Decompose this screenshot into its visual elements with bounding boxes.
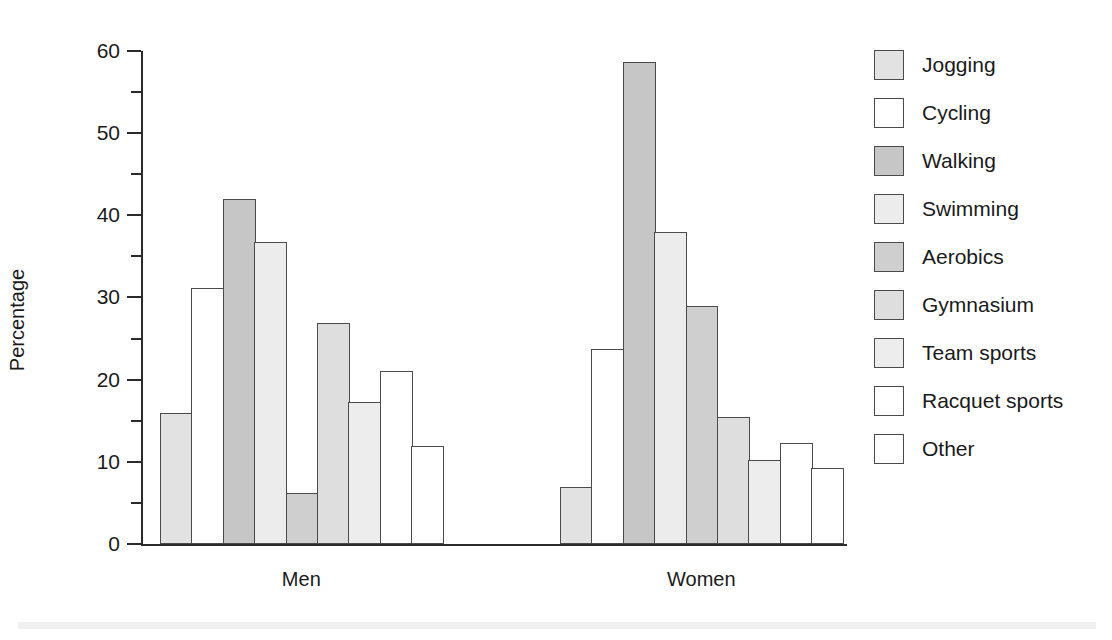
bar [223,199,256,544]
bar [591,349,624,544]
legend-item[interactable]: Cycling [874,89,1106,137]
y-tick-label: 20 [60,369,120,390]
y-tick-minor [131,255,141,257]
y-tick-label-wrap: 60 [50,40,120,61]
page-scan-band [18,622,1096,629]
y-tick-label-wrap: 10 [50,451,120,472]
y-tick-major [127,379,141,381]
y-tick-major [127,543,141,545]
bar [286,493,319,544]
y-tick-label: 40 [60,204,120,225]
legend-swatch-icon [874,146,904,176]
legend-label: Other [922,437,975,461]
bar [654,232,687,544]
legend-label: Racquet sports [922,389,1063,413]
legend-label: Jogging [922,53,996,77]
bar [191,288,224,544]
legend-label: Gymnasium [922,293,1034,317]
legend-item[interactable]: Swimming [874,185,1106,233]
legend-label: Team sports [922,341,1036,365]
bar [160,413,193,544]
bar [380,371,413,544]
y-tick-minor [131,173,141,175]
bar [748,460,781,544]
y-axis-line [141,51,143,546]
y-tick-major [127,214,141,216]
y-axis-title: Percentage [7,240,27,400]
bar [623,62,656,544]
y-tick-label-wrap: 50 [50,122,120,143]
y-tick-label: 10 [60,451,120,472]
y-tick-minor [131,502,141,504]
y-tick-label: 30 [60,286,120,307]
chart-figure: 0102030405060 Percentage MenWomen Joggin… [0,0,1112,640]
bar [254,242,287,544]
bar [717,417,750,544]
y-tick-label-wrap: 40 [50,204,120,225]
legend-swatch-icon [874,242,904,272]
legend-item[interactable]: Walking [874,137,1106,185]
bar [560,487,593,544]
legend-label: Cycling [922,101,991,125]
bar [348,402,381,544]
y-tick-minor [131,338,141,340]
legend-swatch-icon [874,194,904,224]
legend-swatch-icon [874,50,904,80]
y-tick-major [127,132,141,134]
legend-label: Aerobics [922,245,1004,269]
x-axis-line [141,544,847,546]
y-tick-label-wrap: 30 [50,286,120,307]
y-tick-label: 50 [60,122,120,143]
y-tick-major [127,50,141,52]
legend-swatch-icon [874,290,904,320]
y-tick-label-wrap: 0 [50,533,120,554]
bar [811,468,844,544]
y-tick-major [127,461,141,463]
legend-item[interactable]: Team sports [874,329,1106,377]
legend-swatch-icon [874,386,904,416]
bar [780,443,813,544]
legend-item[interactable]: Racquet sports [874,377,1106,425]
y-tick-label: 0 [60,533,120,554]
bar [686,306,719,544]
legend-item[interactable]: Gymnasium [874,281,1106,329]
y-tick-major [127,296,141,298]
x-axis-group-label: Women [560,568,843,590]
y-tick-minor [131,91,141,93]
bar [317,323,350,544]
bar [411,446,444,544]
y-tick-minor [131,420,141,422]
chart-legend: JoggingCyclingWalkingSwimmingAerobicsGym… [874,41,1106,473]
legend-label: Swimming [922,197,1019,221]
y-tick-label: 60 [60,40,120,61]
legend-swatch-icon [874,98,904,128]
legend-swatch-icon [874,338,904,368]
legend-item[interactable]: Other [874,425,1106,473]
legend-swatch-icon [874,434,904,464]
legend-item[interactable]: Jogging [874,41,1106,89]
legend-item[interactable]: Aerobics [874,233,1106,281]
legend-label: Walking [922,149,996,173]
x-axis-group-label: Men [160,568,443,590]
y-tick-label-wrap: 20 [50,369,120,390]
